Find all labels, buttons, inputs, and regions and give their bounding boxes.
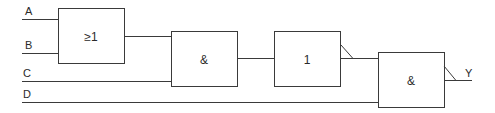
logic-circuit-diagram: A B C D ≥1 & 1 & Y: [0, 0, 495, 113]
label-c: C: [23, 67, 31, 79]
and-gate-2-symbol: &: [407, 74, 415, 88]
or-gate-symbol: ≥1: [84, 30, 98, 44]
label-y: Y: [465, 67, 473, 79]
negation-marker-not: [341, 45, 353, 59]
negation-marker-and2: [444, 66, 456, 81]
label-a: A: [25, 5, 33, 17]
not-gate-symbol: 1: [304, 53, 311, 67]
label-b: B: [25, 39, 32, 51]
and-gate-1-symbol: &: [200, 53, 208, 67]
label-d: D: [23, 88, 31, 100]
